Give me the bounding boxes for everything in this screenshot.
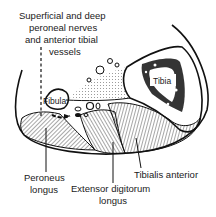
- svg-text:longus: longus: [30, 184, 58, 195]
- tibia-label: Tibia: [153, 76, 171, 86]
- peroneus-longus-label: Peroneus longus: [24, 172, 65, 195]
- fibula-label: Fibula: [43, 96, 66, 106]
- svg-text:and anterior tibial: and anterior tibial: [25, 34, 98, 45]
- extensor-digitorum-longus-label: Extensor digitorum longus: [71, 183, 150, 206]
- tibialis-anterior-label: Tibialis anterior: [134, 169, 198, 180]
- svg-text:peroneal nerves: peroneal nerves: [29, 22, 97, 33]
- svg-text:Extensor digitorum: Extensor digitorum: [71, 183, 150, 194]
- svg-text:longus: longus: [99, 195, 127, 206]
- leg-cross-section-diagram: Tibia Fibula Superficial and deep perone…: [0, 0, 216, 217]
- svg-text:vessels: vessels: [49, 46, 81, 57]
- svg-text:Superficial and deep: Superficial and deep: [19, 10, 106, 21]
- nerves-label: Superficial and deep peroneal nerves and…: [19, 10, 106, 57]
- svg-text:Peroneus: Peroneus: [24, 172, 65, 183]
- interosseous-dotted-region: [70, 67, 130, 100]
